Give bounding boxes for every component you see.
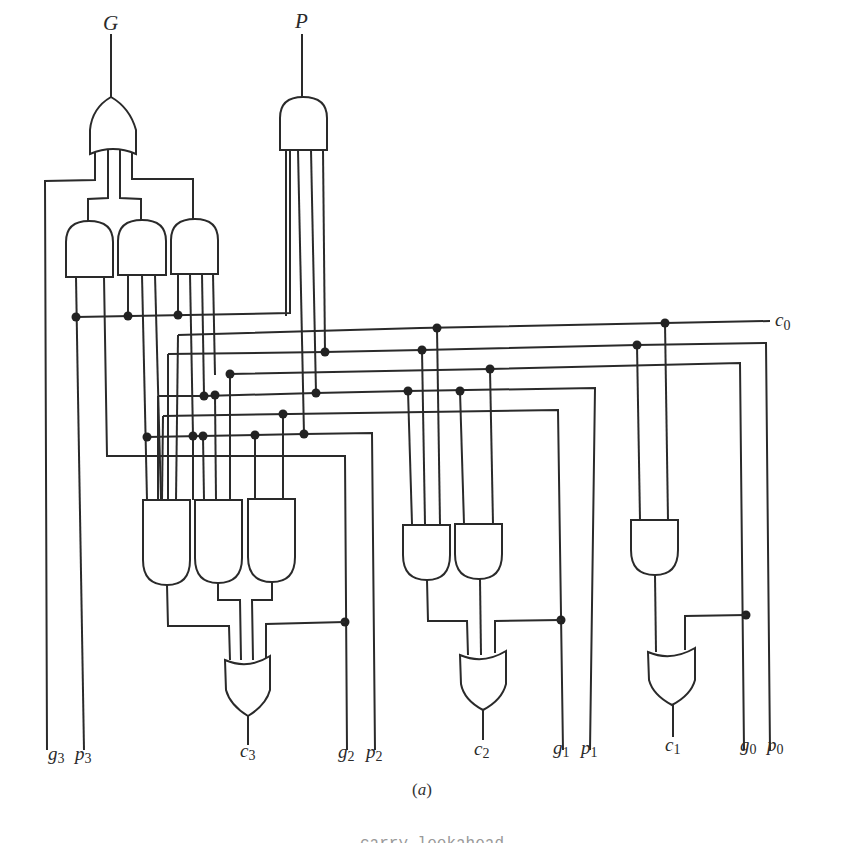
and-gate-c2-a [403,525,450,580]
figure-caption: (a) [0,780,844,800]
and-gate-G2 [118,220,166,275]
and-gate-P [280,34,327,150]
label-g0: g0 [740,734,757,757]
label-g2: g2 [338,741,355,764]
label-c1: c1 [665,734,680,757]
and-gate-G3 [171,219,218,274]
caption-letter: a [418,780,427,799]
label-p2: p2 [364,741,383,764]
truncated-footer-text: carry lookahead generator [360,832,590,843]
and-gate-G1 [66,221,113,277]
or-gate-G [90,34,136,154]
label-P: P [294,9,308,33]
label-p1: p1 [579,737,598,760]
label-p0: p0 [765,734,784,757]
and-gate-c3-c [248,499,295,582]
label-G: G [103,11,118,35]
or-gate-c3 [225,656,270,745]
and-gate-c2-b [455,524,502,579]
and-gate-c1-a [631,520,678,575]
label-c2: c2 [474,738,489,761]
label-c3: c3 [240,740,255,763]
c3-or-inputs [167,582,345,660]
circuit-diagram: G P [0,0,844,843]
and-gate-c3-a [143,500,190,585]
or-gate-c2 [460,651,506,740]
label-p3: p3 [73,743,92,766]
or-gate-c1 [648,648,695,737]
label-g3: g3 [48,743,65,766]
c2-or-inputs [427,579,561,655]
label-c0: c0 [775,309,790,333]
and-gate-c3-b [195,500,242,583]
c1-or-inputs [655,575,746,652]
label-g1: g1 [553,737,570,760]
